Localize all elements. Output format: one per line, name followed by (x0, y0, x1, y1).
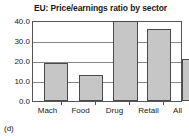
x-tick-label-food: Food (63, 106, 98, 115)
x-tick-mark-1 (61, 102, 62, 105)
bar-retail (147, 29, 171, 101)
bar-drug (113, 21, 138, 101)
bar-all (182, 59, 189, 101)
y-tick-label-0: 0.0 (0, 97, 30, 106)
x-tick-mark-3 (129, 102, 130, 105)
chart-figure: EU: Price/earnings ratio by sector 40.0 … (0, 0, 189, 140)
x-tick-label-drug: Drug (97, 106, 132, 115)
x-tick-label-mach: Mach (30, 106, 65, 115)
y-tick-label-10: 10.0 (0, 77, 30, 86)
bar-food (79, 75, 103, 101)
x-tick-label-all: All (166, 106, 189, 115)
bar-mach (44, 63, 68, 101)
y-axis-tick-labels: 40.0 30.0 20.0 10.0 0.0 (0, 21, 30, 102)
chart-title: EU: Price/earnings ratio by sector (12, 3, 189, 13)
panel-label: (d) (4, 124, 14, 133)
y-tick-label-30: 30.0 (0, 37, 30, 46)
plot-area (32, 21, 182, 102)
y-tick-label-20: 20.0 (0, 57, 30, 66)
y-tick-label-40: 40.0 (0, 17, 30, 26)
x-tick-mark-4 (163, 102, 164, 105)
x-tick-label-retail: Retail (130, 106, 167, 115)
x-tick-mark-2 (95, 102, 96, 105)
